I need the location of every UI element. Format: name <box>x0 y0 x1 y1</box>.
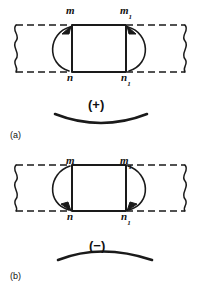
figure-root: m m1 n n1 (+) (a) <box>0 0 202 297</box>
panel-a-drawing <box>0 0 202 150</box>
label-m1-top-right: m1 <box>120 5 132 19</box>
deflected-shape-curve <box>55 114 147 123</box>
beam-left-break-wave <box>15 165 18 211</box>
beam-right-break-wave <box>184 165 187 211</box>
beam-left-break-wave <box>15 25 18 72</box>
panel-a: m m1 n n1 (+) (a) <box>0 0 202 150</box>
label-n1-bottom-right: n1 <box>121 72 131 86</box>
panel-tag-a: (a) <box>10 130 21 140</box>
label-m-top-left: m <box>66 155 75 166</box>
label-m1-top-right: m1 <box>120 155 132 169</box>
beam-right-break-wave <box>184 25 187 72</box>
label-n1-bottom-right: n1 <box>121 211 131 225</box>
label-n-bottom-left: n <box>67 211 73 222</box>
sign-indicator-negative: (−) <box>89 238 105 253</box>
sign-indicator-positive: (+) <box>88 97 104 112</box>
panel-tag-b: (b) <box>10 271 21 281</box>
panel-b: m m1 n n1 (−) (b) <box>0 150 202 297</box>
label-m-top-left: m <box>66 5 75 16</box>
panel-b-drawing <box>0 150 202 297</box>
label-n-bottom-left: n <box>67 72 73 83</box>
